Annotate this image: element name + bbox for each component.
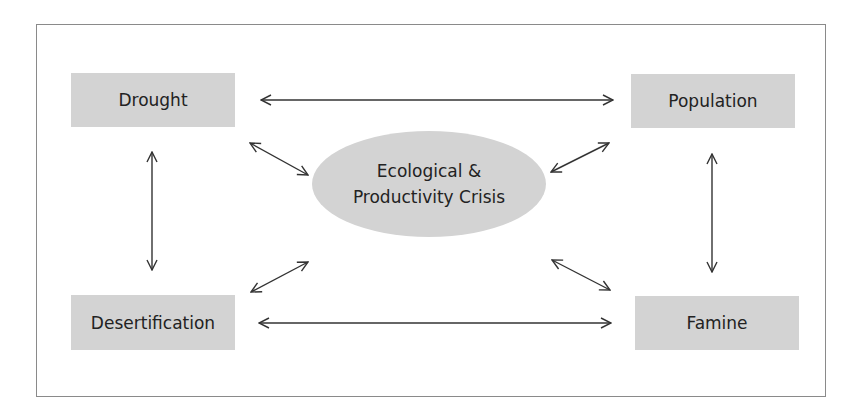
arrow-desertification-center [251, 262, 308, 292]
arrows-layer [0, 0, 860, 420]
arrow-drought-center [250, 143, 308, 175]
arrow-population-center [551, 143, 609, 172]
arrow-famine-center [552, 260, 610, 290]
